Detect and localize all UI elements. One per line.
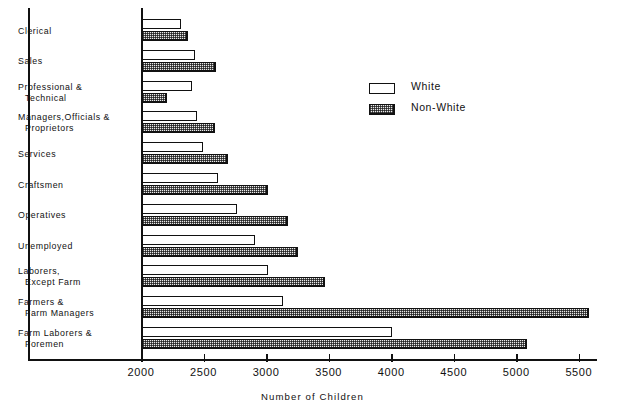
category-label-line: Technical [18,93,138,104]
bar-non-white [142,277,325,287]
bar-non-white [142,93,167,103]
bar-row: Farm Laborers &Foremen [0,324,625,354]
legend-label-white: White [411,80,441,92]
bar-white [142,81,192,91]
bar-non-white [142,185,268,195]
category-label-line: Farmers & [18,297,138,308]
x-axis-label: Number of Children [0,391,625,402]
hatched-swatch-icon [369,104,395,115]
x-axis-tick-label: 4000 [378,366,405,378]
category-label: Craftsmen [18,170,138,200]
bar-white [142,19,181,29]
category-label: Services [18,139,138,169]
x-axis-tick-label: 2500 [190,366,217,378]
x-axis-tick [266,354,268,362]
x-axis-tick [579,354,581,362]
category-label-line: Laborers, [18,266,138,277]
category-label-line: Farm Managers [18,308,138,319]
bar-chart: ClericalSalesProfessional &TechnicalMana… [0,0,625,413]
bar-non-white [142,123,215,133]
bar-white [142,173,218,183]
category-label-line: Except Farm [18,277,138,288]
white-swatch-icon [369,83,395,94]
category-label: Managers,Officials &Proprietors [18,108,138,138]
category-label: Unemployed [18,232,138,262]
category-label-line: Sales [18,56,138,67]
bar-non-white [142,308,589,318]
bar-row: Clerical [0,16,625,46]
x-axis-tick-label: 3000 [253,366,280,378]
category-label: Farm Laborers &Foremen [18,324,138,354]
x-axis-tick-label: 5000 [503,366,530,378]
bar-white [142,235,255,245]
bar-white [142,327,392,337]
legend-label-non-white: Non-White [411,101,466,113]
x-axis-tick-label: 4500 [440,366,467,378]
legend-item-white: White [369,79,519,100]
category-label-line: Proprietors [18,123,138,134]
bar-non-white [142,31,188,41]
x-axis-tick [329,354,331,362]
x-axis-tick [204,354,206,362]
bar-rows: ClericalSalesProfessional &TechnicalMana… [0,8,625,361]
bar-row: Sales [0,47,625,77]
category-label: Operatives [18,201,138,231]
bar-row: Managers,Officials &Proprietors [0,108,625,138]
category-label-line: Foremen [18,339,138,350]
category-label: Clerical [18,16,138,46]
category-label-line: Clerical [18,26,138,37]
bar-non-white [142,62,216,72]
bar-white [142,142,203,152]
x-axis-tick [516,354,518,362]
category-label: Sales [18,47,138,77]
category-label-line: Operatives [18,210,138,221]
x-axis-tick [391,354,393,362]
category-label-line: Farm Laborers & [18,328,138,339]
x-axis-tick-label: 2000 [128,366,155,378]
x-axis-tick-label: 5500 [565,366,592,378]
bar-white [142,296,283,306]
x-axis-tick-labels: 20002500300035004000450050005500 [0,366,625,382]
bar-row: Craftsmen [0,170,625,200]
category-label: Farmers &Farm Managers [18,293,138,323]
bar-row: Laborers,Except Farm [0,262,625,292]
bar-row: Operatives [0,201,625,231]
bar-non-white [142,154,228,164]
bar-white [142,111,197,121]
category-label: Professional &Technical [18,78,138,108]
bar-non-white [142,216,288,226]
chart-legend: White Non-White [369,79,519,121]
bar-row: Farmers &Farm Managers [0,293,625,323]
category-label-line: Services [18,149,138,160]
category-label-line: Unemployed [18,241,138,252]
category-label: Laborers,Except Farm [18,262,138,292]
x-axis-tick [141,354,143,362]
category-label-line: Managers,Officials & [18,112,138,123]
bar-row: Unemployed [0,232,625,262]
x-axis-tick-label: 3500 [315,366,342,378]
bar-non-white [142,339,527,349]
category-label-line: Craftsmen [18,180,138,191]
category-label-line: Professional & [18,82,138,93]
bar-row: Professional &Technical [0,78,625,108]
bar-row: Services [0,139,625,169]
bar-white [142,265,268,275]
bar-white [142,204,237,214]
bar-white [142,50,195,60]
x-axis-tick [454,354,456,362]
bar-non-white [142,247,298,257]
legend-item-non-white: Non-White [369,100,519,121]
